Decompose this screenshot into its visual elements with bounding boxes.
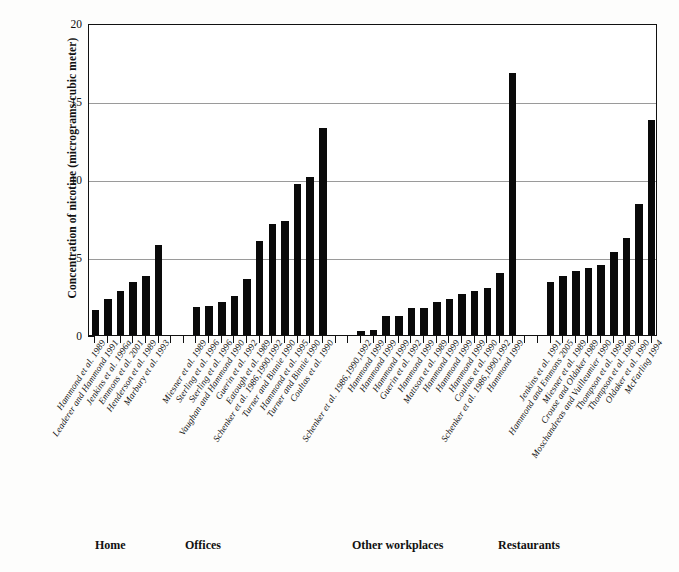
nicotine-concentration-bar-chart: Concentration of nicotine (micrograms/cu… bbox=[0, 0, 679, 572]
bar bbox=[585, 268, 593, 335]
bar bbox=[117, 291, 125, 335]
bar bbox=[458, 294, 466, 335]
bar bbox=[572, 271, 580, 335]
y-tick-label: 5 bbox=[52, 252, 82, 264]
bar bbox=[446, 299, 454, 335]
bar bbox=[205, 306, 213, 335]
bar bbox=[509, 73, 517, 335]
bar bbox=[370, 330, 378, 335]
y-tick-label: 20 bbox=[52, 18, 82, 30]
bar bbox=[547, 282, 555, 335]
group-caption-offices: Offices bbox=[185, 538, 221, 553]
bar bbox=[218, 302, 226, 335]
bar bbox=[395, 316, 403, 336]
bar bbox=[648, 120, 656, 335]
bar bbox=[281, 221, 289, 335]
y-tick-label: 10 bbox=[52, 174, 82, 186]
bar bbox=[92, 310, 100, 335]
bar bbox=[294, 184, 302, 335]
bar bbox=[559, 276, 567, 335]
y-axis-title: Concentration of nicotine (micrograms/cu… bbox=[0, 0, 6, 12]
bar bbox=[142, 276, 150, 335]
bar bbox=[420, 308, 428, 335]
bar bbox=[319, 128, 327, 335]
y-axis-title-text: Concentration of nicotine (micrograms/cu… bbox=[66, 18, 78, 318]
plot-area bbox=[88, 24, 657, 336]
bar bbox=[357, 331, 365, 335]
bar bbox=[610, 252, 618, 335]
bar bbox=[104, 299, 112, 335]
bar bbox=[597, 265, 605, 335]
bar bbox=[256, 241, 264, 335]
bar bbox=[155, 245, 163, 335]
gridline bbox=[89, 259, 656, 260]
bar bbox=[129, 282, 137, 335]
bar bbox=[635, 204, 643, 335]
gridline bbox=[89, 181, 656, 182]
bar bbox=[231, 296, 239, 335]
y-tick-label: 0 bbox=[52, 330, 82, 342]
group-caption-other-workplaces: Other workplaces bbox=[352, 538, 443, 553]
bar bbox=[382, 316, 390, 335]
bar bbox=[306, 177, 314, 335]
gridline bbox=[89, 103, 656, 104]
bar bbox=[193, 307, 201, 335]
bar bbox=[433, 302, 441, 335]
bar bbox=[484, 288, 492, 335]
y-tick-label: 15 bbox=[52, 96, 82, 108]
bar bbox=[408, 308, 416, 335]
x-axis-labels: Hammond et al. 1989Leaderer and Hammond … bbox=[88, 338, 657, 513]
bar bbox=[269, 224, 277, 335]
group-caption-home: Home bbox=[95, 538, 126, 553]
bar bbox=[496, 273, 504, 335]
bar bbox=[243, 279, 251, 335]
bar bbox=[471, 291, 479, 335]
group-caption-restaurants: Restaurants bbox=[498, 538, 560, 553]
bar bbox=[623, 238, 631, 335]
